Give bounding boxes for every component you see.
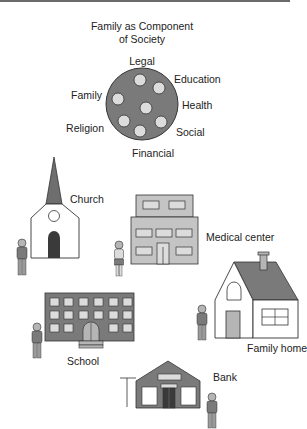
- home-chimney: [260, 253, 267, 270]
- label-health: Health: [182, 99, 213, 111]
- component-religion-dot: [118, 115, 130, 127]
- person-man-near-school: [32, 323, 42, 358]
- person-woman-near-medical: [115, 241, 124, 276]
- person-man-near-home: [197, 305, 207, 340]
- person-man-near-church: [17, 239, 27, 275]
- church-round-window: [49, 211, 60, 222]
- society-diagram: Family as Component of Society Legal Edu…: [0, 0, 307, 429]
- home-arched-window: [227, 282, 241, 300]
- label-education: Education: [174, 73, 221, 85]
- diagram-title-line2: of Society: [119, 33, 166, 45]
- bank-building: [120, 361, 200, 408]
- label-school: School: [67, 355, 99, 367]
- label-social: Social: [176, 126, 205, 138]
- society-circle: [106, 68, 178, 140]
- label-medical-center: Medical center: [206, 231, 275, 243]
- component-education-dot: [153, 82, 165, 94]
- diagram-title-line1: Family as Component: [91, 20, 193, 32]
- component-health-dot: [140, 102, 152, 114]
- home-door: [226, 311, 240, 338]
- school-building: [45, 293, 134, 348]
- component-financial-dot: [134, 125, 146, 137]
- component-family-dot: [112, 93, 124, 105]
- church-spire: [46, 157, 62, 204]
- person-man-near-bank: [207, 393, 217, 428]
- family-home-building: [215, 252, 298, 338]
- label-legal: Legal: [129, 55, 155, 67]
- church-door: [48, 231, 60, 258]
- church-building: [31, 157, 79, 258]
- component-social-dot: [155, 116, 167, 128]
- label-family-home: Family home: [247, 342, 307, 354]
- label-bank: Bank: [213, 371, 238, 383]
- label-religion: Religion: [66, 122, 104, 134]
- school-steps: [79, 341, 103, 345]
- medical-center-building: [131, 195, 198, 264]
- label-church: Church: [70, 193, 104, 205]
- label-financial: Financial: [132, 147, 174, 159]
- component-legal-dot: [134, 74, 146, 86]
- label-family: Family: [71, 89, 103, 101]
